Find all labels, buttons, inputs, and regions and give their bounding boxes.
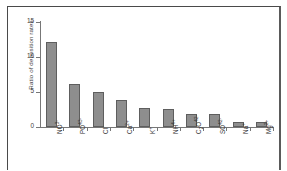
y-axis-tick-label: 0: [8, 123, 34, 129]
y-axis-tick-label-wrap: 15: [4, 18, 34, 24]
bar: [93, 92, 104, 127]
x-axis-tick-label: Mg2+: [264, 120, 272, 134]
x-axis-tick-label: Na+: [241, 123, 249, 134]
y-axis-tick-label-wrap: 0: [4, 123, 34, 129]
x-axis-tick-mark: [250, 128, 251, 131]
x-axis-tick-mark: [226, 128, 227, 131]
y-axis-tick-label-wrap: 10: [4, 53, 34, 59]
bars-layer: [40, 22, 273, 127]
y-axis-tick-mark: [36, 127, 41, 128]
figure: Ratio of deposition rates 15 10 5 0 NO3-…: [0, 0, 287, 171]
x-axis-tick-label: C2O42-: [194, 115, 204, 134]
x-axis-tick-label: Ca2+: [125, 120, 133, 134]
x-axis-tick-label: PO43-: [78, 118, 86, 134]
x-axis-tick-label: NH4+: [171, 119, 179, 134]
y-axis-tick-label-wrap: 5: [4, 88, 34, 94]
x-axis-tick-mark: [133, 128, 134, 131]
y-axis-tick-label: 5: [8, 88, 34, 94]
x-axis-tick-mark: [273, 128, 274, 131]
x-axis-tick-mark: [110, 128, 111, 131]
plot-container: Ratio of deposition rates 15 10 5 0 NO3-…: [0, 0, 287, 171]
x-axis-tick-mark: [87, 128, 88, 131]
y-axis-tick-label: 10: [8, 53, 34, 59]
x-axis-tick-label: Cl-: [101, 126, 109, 134]
x-axis-tick-mark: [180, 128, 181, 131]
x-axis-tick-label: NO3-: [55, 120, 63, 134]
y-axis-tick-label: 15: [8, 18, 34, 24]
x-axis-tick-mark: [63, 128, 64, 131]
bar: [46, 42, 57, 127]
bar: [139, 108, 150, 127]
x-axis-tick-mark: [157, 128, 158, 131]
x-axis-tick-label: K+: [148, 127, 156, 134]
x-axis-tick-label: SO42-: [218, 118, 226, 134]
